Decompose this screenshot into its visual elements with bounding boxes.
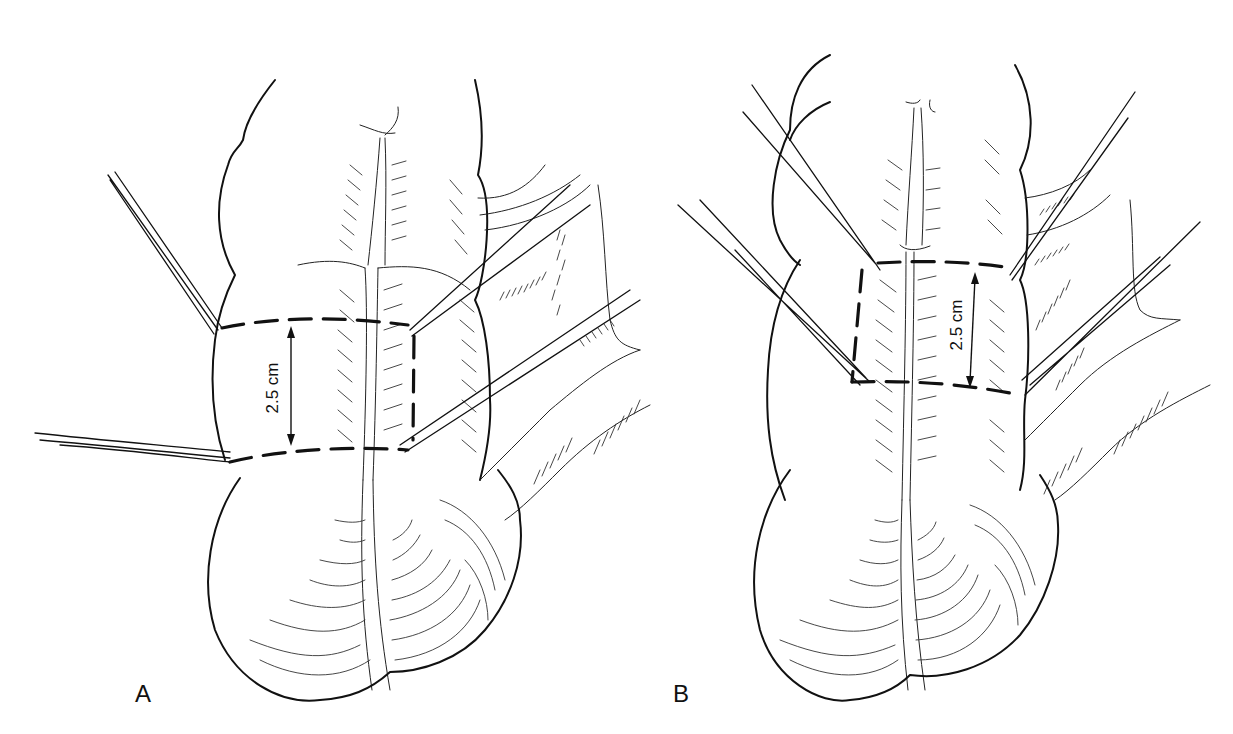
- panel-a-incision-right: [413, 336, 414, 440]
- panel-b-suture-bottom-left: [678, 200, 870, 385]
- panel-b-shaft-left-outline: [767, 55, 830, 500]
- panel-a-incision-bottom: [230, 448, 408, 462]
- panel-b-drape-hatching: [1035, 194, 1168, 494]
- panel-b: 2.5 cm B: [673, 55, 1210, 707]
- panel-b-drape-lines: [1025, 170, 1210, 500]
- panel-b-shaft-right-outline: [1015, 65, 1031, 490]
- panel-a-label: A: [135, 680, 151, 707]
- panel-a-incision-top: [222, 319, 408, 328]
- panel-a-transverse-fold: [298, 261, 470, 290]
- panel-b-measurement-label: 2.5 cm: [947, 299, 966, 350]
- panel-b-scrotum-hatching: [780, 505, 1035, 675]
- panel-b-raphe: [900, 100, 935, 690]
- panel-a-suture-bottom-right: [400, 290, 640, 452]
- panel-b-incision-top: [878, 262, 1012, 268]
- panel-a: 2.5 cm A: [35, 80, 650, 707]
- panel-b-scrotum-outline: [754, 470, 1058, 701]
- panel-b-raphe-hatching: [876, 140, 1004, 472]
- panel-a-measurement-arrow: [287, 326, 295, 446]
- panel-a-suture-top-left: [108, 172, 222, 334]
- panel-b-suture-top-right: [1010, 92, 1135, 280]
- panel-b-suture-bottom-right: [1022, 222, 1200, 395]
- panel-a-drape-hatching: [500, 230, 640, 484]
- panel-a-drape-lines: [478, 165, 650, 520]
- panel-a-suture-top-right: [410, 185, 590, 336]
- panel-a-scrotum-outline: [208, 470, 521, 701]
- surgical-illustration: 2.5 cm A: [0, 0, 1233, 734]
- panel-a-suture-bottom-left: [35, 433, 230, 462]
- panel-b-measurement-arrow: [966, 272, 979, 388]
- panel-b-label: B: [673, 680, 689, 707]
- panel-b-shaft-left-fold: [790, 102, 830, 140]
- panel-a-measurement-label: 2.5 cm: [263, 362, 282, 413]
